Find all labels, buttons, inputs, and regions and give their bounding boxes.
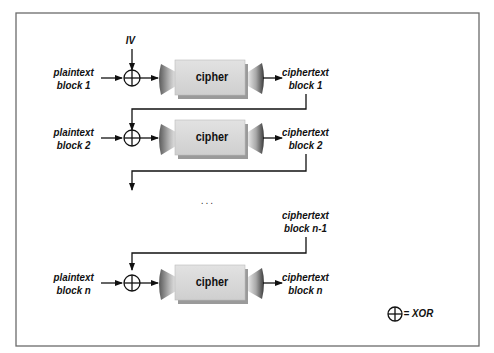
ciphertext-line1: ciphertext	[282, 126, 329, 139]
plaintext-line1: plaintext	[54, 126, 94, 139]
plaintext-block-n: plaintext block n	[54, 271, 94, 297]
ellipsis: . . .	[201, 194, 213, 207]
cipher-label-n: cipher	[196, 275, 228, 289]
ciphertext-line1: ciphertext	[282, 271, 329, 284]
plaintext-line2: block 1	[54, 79, 94, 92]
ciphertext-block-n-minus-1: ciphertext block n-1	[282, 209, 329, 235]
ciphertext-line1: ciphertext	[282, 209, 329, 222]
plaintext-block-1: plaintext block 1	[54, 66, 94, 92]
ciphertext-line1: ciphertext	[282, 66, 329, 79]
plaintext-line1: plaintext	[54, 271, 94, 284]
ciphertext-line2: block n-1	[282, 222, 329, 235]
cipher-label-1: cipher	[196, 70, 228, 84]
cipher-label-2: cipher	[196, 130, 228, 144]
plaintext-block-2: plaintext block 2	[54, 126, 94, 152]
ciphertext-block-2: ciphertext block 2	[282, 126, 329, 152]
plaintext-line2: block 2	[54, 139, 94, 152]
xor-legend-text: = XOR	[404, 307, 434, 320]
diagram-canvas: IV plaintext block 1 cipher ciphertext b…	[0, 0, 494, 353]
ciphertext-line2: block n	[282, 284, 329, 297]
ciphertext-block-n: ciphertext block n	[282, 271, 329, 297]
plaintext-line1: plaintext	[54, 66, 94, 79]
ciphertext-block-1: ciphertext block 1	[282, 66, 329, 92]
xor-icon-1	[124, 70, 140, 86]
diagram-graphics	[0, 0, 494, 353]
ciphertext-line2: block 1	[282, 79, 329, 92]
plaintext-line2: block n	[54, 284, 94, 297]
ciphertext-line2: block 2	[282, 139, 329, 152]
xor-legend-icon	[388, 307, 402, 321]
xor-icon-2	[124, 130, 140, 146]
xor-icon-n	[124, 275, 140, 291]
iv-label: IV	[126, 34, 135, 47]
